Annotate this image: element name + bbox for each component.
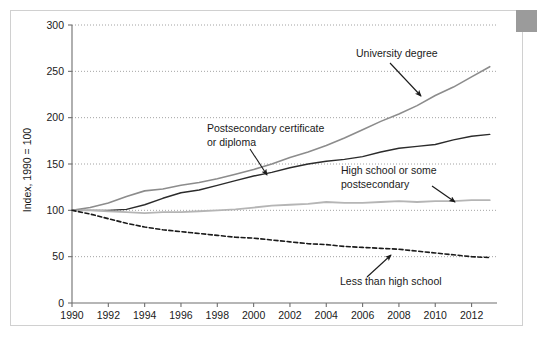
y-axis-title-group: Index, 1990 = 100 [21,128,33,213]
annotation-line: High school or some [341,164,437,176]
x-tick-label-1996: 1996 [169,309,193,321]
annotation-label-less-than-high-school: Less than high school [340,275,442,287]
index-line-chart: 050100150200250300 199019921994199619982… [0,0,537,342]
y-tick-label-150: 150 [46,158,64,170]
x-tick-label-1994: 1994 [133,309,157,321]
x-tick-label-2012: 2012 [460,309,484,321]
x-tick-label-2008: 2008 [387,309,411,321]
annotation-line: Postsecondary certificate [207,122,324,134]
y-tick-label-50: 50 [52,250,64,262]
annotation-line: or diploma [207,136,256,148]
x-tick-label-1992: 1992 [97,309,121,321]
x-tick-label-2010: 2010 [424,309,448,321]
x-tick-label-1990: 1990 [60,309,84,321]
x-tick-label-2002: 2002 [278,309,302,321]
series-line-university-degree [72,67,490,211]
annotation-line: Less than high school [340,275,442,287]
y-tick-label-200: 200 [46,111,64,123]
x-tick-label-1998: 1998 [206,309,230,321]
annotation-label-postsecondary-certificate: Postsecondary certificateor diploma [207,122,324,148]
gridlines-group [72,25,497,257]
annotations-group: University degreePostsecondary certifica… [207,47,455,287]
y-tick-label-100: 100 [46,204,64,216]
series-line-less-than-high-school [72,210,490,257]
annotation-line: postsecondary [341,178,410,190]
y-axis-ticks: 050100150200250300 [46,19,72,309]
data-series-group [72,67,490,258]
annotation-arrow-postsecondary-certificate [250,149,267,175]
x-tick-label-2000: 2000 [242,309,266,321]
annotation-label-high-school-or-some-postsecondary: High school or somepostsecondary [341,164,437,190]
y-tick-label-300: 300 [46,19,64,31]
annotation-label-university-degree: University degree [356,47,438,59]
x-axis-ticks: 1990199219941996199820002002200420062008… [60,303,483,321]
annotation-arrow-high-school-or-some-postsecondary [432,186,455,202]
annotation-arrow-university-degree [390,63,421,96]
x-tick-label-2006: 2006 [351,309,375,321]
y-tick-label-250: 250 [46,65,64,77]
annotation-arrow-less-than-high-school [367,255,391,277]
x-tick-label-2004: 2004 [315,309,339,321]
annotation-line: University degree [356,47,438,59]
y-axis-title: Index, 1990 = 100 [21,128,33,213]
y-tick-label-0: 0 [58,297,64,309]
